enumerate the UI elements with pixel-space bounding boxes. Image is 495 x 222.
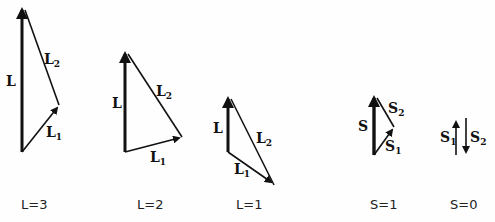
label-s1: S1 [385,138,401,156]
caption-s0: S=0 [450,197,477,212]
diagram-l2: L L2 L1 [112,54,182,167]
caption-l3: L=3 [21,197,47,212]
vector-figure: L L2 L1 L L2 L1 L L2 L1 S S2 [0,0,495,222]
label-l1: L1 [150,149,166,167]
label-l2: L2 [256,130,272,148]
caption-s1: S=1 [370,197,397,212]
label-l: L [213,120,223,136]
diagram-s1: S S2 S1 [358,98,404,156]
vector-coupling-diagram: L L2 L1 L L2 L1 L L2 L1 S S2 [0,0,495,222]
vector-l2 [128,54,182,137]
label-l1: L1 [234,161,250,179]
label-l: L [6,73,16,89]
label-l2: L2 [156,83,172,101]
label-s2: S2 [470,129,486,147]
diagram-s0: S1 S2 [440,118,486,155]
label-l: L [112,95,122,111]
label-l2: L2 [44,51,60,69]
label-l1: L1 [46,124,62,142]
diagram-l3: L L2 L1 [6,10,62,152]
label-s: S [358,118,368,134]
diagram-l1: L L2 L1 [213,99,274,185]
label-s2: S2 [388,100,404,118]
vector-l2 [25,10,59,105]
caption-l2: L=2 [137,197,163,212]
caption-l1: L=1 [236,197,262,212]
label-s1: S1 [440,129,456,147]
